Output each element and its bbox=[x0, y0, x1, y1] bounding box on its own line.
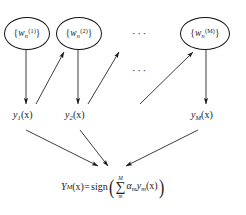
arrow-y1-to-final bbox=[26, 130, 98, 166]
weight-node-1: {wn(1)} bbox=[4, 17, 50, 50]
top-ellipsis: ··· bbox=[132, 27, 148, 39]
sum-lower-limit: m bbox=[119, 194, 123, 199]
weight-node-2-label: {wn(2)} bbox=[66, 28, 93, 39]
weight-node-m-label: {wn(M)} bbox=[190, 28, 219, 39]
formula-equals: = bbox=[84, 182, 90, 192]
arrow-y2-to-next bbox=[88, 52, 119, 104]
output-label-ym: yM(x) bbox=[191, 110, 213, 121]
arrow-y1-to-w2 bbox=[36, 52, 64, 104]
term-arg: (x) bbox=[146, 180, 158, 191]
formula-function-name: sign bbox=[91, 182, 108, 192]
final-formula: YM(x)=sign(M∑mαmym(x)) bbox=[61, 175, 165, 199]
coefficient-alpha: α bbox=[126, 180, 131, 191]
arrow-y2-to-final bbox=[80, 130, 108, 166]
summation-operator: M∑m bbox=[116, 176, 126, 200]
output-label-y1: y1(x) bbox=[13, 110, 33, 121]
arrow-yM-to-final bbox=[126, 130, 198, 166]
middle-ellipsis: ··· bbox=[132, 64, 148, 76]
weight-node-m: {wn(M)} bbox=[180, 17, 230, 50]
weight-node-1-label: {wn(1)} bbox=[14, 28, 41, 39]
weight-node-2: {wn(2)} bbox=[56, 17, 102, 50]
formula-lhs-arg: (x) bbox=[72, 182, 84, 192]
boosting-diagram: {wn(1)} {wn(2)} {wn(M)} ··· ··· y1(x) y2… bbox=[0, 0, 246, 215]
summand: αmym(x) bbox=[126, 181, 157, 192]
arrow-prev-to-wM bbox=[140, 52, 193, 104]
output-label-y2: y2(x) bbox=[65, 110, 85, 121]
